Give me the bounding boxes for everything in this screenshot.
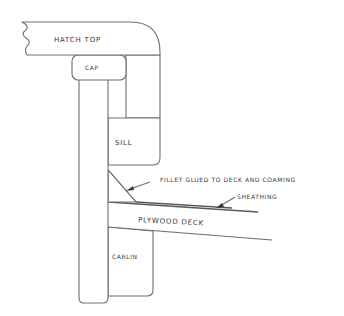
label-carlin: CARLIN — [112, 253, 138, 260]
fillet-arrowhead — [126, 186, 134, 191]
label-sheathing: SHEATHING — [237, 193, 277, 200]
cap — [72, 55, 126, 80]
hatch-section-diagram: HATCH TOP CAP SILL FILLET GLUED TO DECK … — [0, 0, 344, 316]
carlin — [108, 227, 153, 296]
label-sill: SILL — [115, 139, 133, 147]
coaming-outer — [126, 55, 160, 118]
label-fillet: FILLET GLUED TO DECK AND COAMING — [160, 176, 296, 183]
label-hatch-top: HATCH TOP — [54, 36, 101, 44]
label-cap: CAP — [85, 64, 99, 71]
coaming-post — [79, 78, 108, 303]
